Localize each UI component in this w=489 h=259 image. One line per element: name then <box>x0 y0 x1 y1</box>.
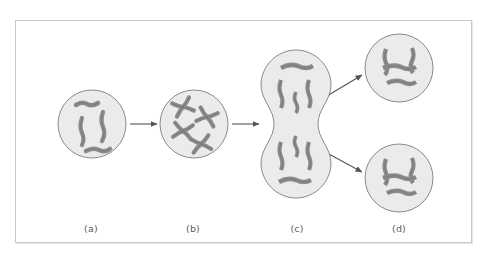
cell-division-figure: (a) (b) (c) (d) <box>0 0 489 259</box>
cell-membrane-c <box>261 50 331 198</box>
arrow-c-to-d-upper <box>327 75 362 96</box>
stage-label-d: (d) <box>392 223 406 234</box>
cell-stage-d-upper <box>365 34 433 102</box>
cell-stage-c <box>261 50 331 198</box>
stage-label-a: (a) <box>84 223 98 234</box>
cell-stage-d-lower <box>365 144 433 212</box>
cell-division-diagram <box>0 0 489 259</box>
stage-label-c: (c) <box>290 223 303 234</box>
cell-stage-a <box>58 90 126 158</box>
arrow-c-to-d-lower <box>327 153 362 172</box>
stage-label-b: (b) <box>186 223 200 234</box>
cell-stage-b <box>160 90 228 158</box>
